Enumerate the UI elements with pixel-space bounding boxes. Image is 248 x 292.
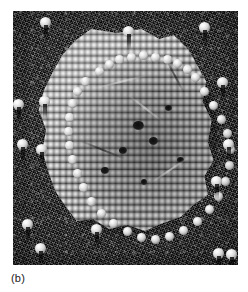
lattice-vacancy [119,147,127,154]
free-sphere-bottom-right [213,248,224,259]
rim-sphere [115,55,124,64]
rim-sphere [205,205,214,214]
rim-sphere [137,233,146,242]
free-sphere-top-right [199,22,210,33]
sphere-shadow [95,232,99,248]
rim-sphere [221,177,230,186]
sphere-shadow [40,152,44,168]
rim-sphere [151,235,160,244]
rim-sphere [173,59,182,68]
rim-sphere [68,155,77,164]
sphere-shadow [26,227,30,243]
sphere-shadow [230,257,234,265]
rim-sphere [87,197,96,206]
panel-label-caption: (b) [11,272,25,285]
free-sphere-left-upper [39,96,50,107]
sphere-shadow [44,25,48,41]
rim-sphere [151,53,160,62]
rim-sphere [139,51,148,60]
rim-sphere [123,227,132,236]
free-sphere-right-upper [217,77,228,88]
sphere-shadow [21,147,25,163]
rim-sphere [223,129,232,138]
electron-micrograph-image [13,11,238,265]
free-sphere-bottom-center [91,224,102,235]
lattice-vacancy [133,121,144,130]
lattice-vacancy [141,179,147,185]
rim-sphere [179,226,188,235]
rim-sphere [183,65,192,74]
rim-sphere [64,127,73,136]
rim-sphere [97,209,106,218]
sphere-shadow [203,30,207,46]
sphere-shadow [17,107,21,123]
sphere-shadow [217,256,221,265]
lattice-vacancy [101,167,109,174]
free-sphere-bottom-right2 [226,249,237,260]
sphere-shadow [227,147,231,163]
lattice-vacancy [165,105,172,111]
rim-sphere [105,60,114,69]
rim-sphere [193,217,202,226]
rim-sphere [73,169,82,178]
rim-sphere [217,115,226,124]
free-sphere-bottom-left2 [35,243,46,254]
sphere-shadow [43,104,47,120]
rim-sphere [68,99,77,108]
rim-sphere [95,67,104,76]
sphere-shadow [215,184,219,200]
sphere-shadow [39,251,43,265]
free-sphere-left-edge [13,99,24,110]
rim-sphere [191,73,200,82]
sphere-shadow [127,34,131,50]
rim-sphere [65,141,74,150]
rim-sphere [200,87,209,96]
nanosphere-cluster [13,11,238,265]
lattice-vacancy [149,137,158,145]
figure-panel-b: (b) [0,0,248,292]
rim-sphere [127,53,136,62]
free-sphere-right-lower [211,176,222,187]
free-sphere-left-lower [36,144,47,155]
free-sphere-right-mid [223,139,234,150]
rim-sphere [163,55,172,64]
rim-sphere [109,219,118,228]
free-sphere-top-left [40,17,51,28]
rim-sphere [165,232,174,241]
free-sphere-left-mid [17,139,28,150]
rim-sphere [81,77,90,86]
sphere-shadow [221,85,225,101]
rim-sphere [65,113,74,122]
rim-sphere [79,183,88,192]
free-sphere-top-center [123,26,134,37]
rim-sphere [209,101,218,110]
rim-sphere [73,87,82,96]
free-sphere-bottom-left [22,219,33,230]
